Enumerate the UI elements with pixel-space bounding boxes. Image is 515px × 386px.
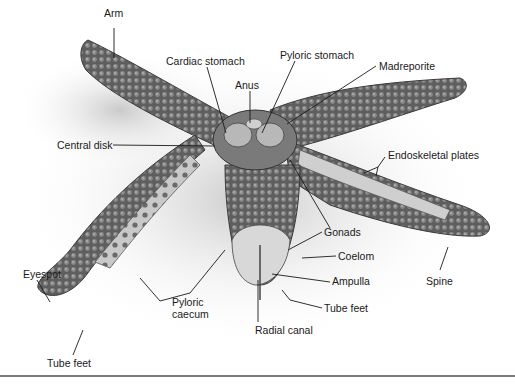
sea-star-diagram: Arm Cardiac stomach Pyloric stomach Anus… <box>0 0 515 386</box>
label-ampulla: Ampulla <box>332 275 370 287</box>
bottom-divider <box>0 375 515 377</box>
label-central-disk: Central disk <box>57 139 112 151</box>
label-gonads: Gonads <box>324 226 361 238</box>
label-eyespot: Eyespot <box>23 268 61 280</box>
label-coelom: Coelom <box>338 250 374 262</box>
label-arm: Arm <box>104 7 123 19</box>
label-endoskeletal-plates: Endoskeletal plates <box>388 149 479 161</box>
label-anus: Anus <box>235 79 259 91</box>
label-pyloric-stomach: Pyloric stomach <box>280 49 354 61</box>
label-madreporite: Madreporite <box>379 60 435 72</box>
label-cardiac-stomach: Cardiac stomach <box>166 55 245 67</box>
label-radial-canal: Radial canal <box>255 324 313 336</box>
label-spine: Spine <box>426 275 453 287</box>
label-tube-feet-center: Tube feet <box>324 302 368 314</box>
label-pyloric-caecum: Pyloric caecum <box>172 296 212 320</box>
label-tube-feet-left: Tube feet <box>47 357 91 369</box>
